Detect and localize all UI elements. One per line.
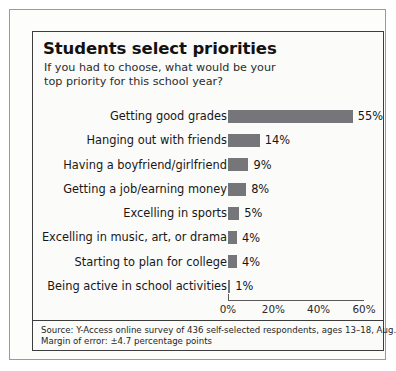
category-label: Having a boyfriend/girlfriend (63, 153, 227, 177)
bar-track: 55% (228, 104, 385, 128)
bar-track: 5% (228, 201, 385, 225)
chart-row: Hanging out with friends14% (33, 128, 385, 152)
bar (228, 134, 260, 147)
bar-track: 8% (228, 177, 385, 201)
category-label: Being active in school activities (47, 274, 227, 298)
footer-divider (33, 320, 383, 321)
bar (228, 255, 237, 268)
bar (228, 183, 246, 196)
chart-row: Having a boyfriend/girlfriend9% (33, 153, 385, 177)
category-label: Hanging out with friends (86, 128, 227, 152)
bar-track: 14% (228, 128, 385, 152)
bar-value-label: 55% (358, 109, 383, 123)
chart-row: Getting a job/earning money8% (33, 177, 385, 201)
bar-track: 4% (228, 225, 385, 249)
bar-value-label: 9% (253, 158, 271, 172)
category-label: Excelling in sports (123, 201, 227, 225)
bar-track: 4% (228, 250, 385, 274)
bar (228, 158, 248, 171)
x-axis-line (228, 300, 364, 301)
chart-row: Getting good grades55% (33, 104, 385, 128)
x-tick-label: 60% (352, 303, 375, 315)
page-frame: Students select priorities If you had to… (9, 9, 386, 360)
bar-value-label: 8% (251, 182, 269, 196)
x-axis-ticks: 0%20%40%60% (228, 303, 388, 317)
chart-title: Students select priorities (43, 39, 277, 58)
chart-row: Starting to plan for college4% (33, 250, 385, 274)
chart-footer: Source: Y-Access online survey of 436 se… (41, 325, 381, 347)
bar (228, 280, 230, 293)
bar-value-label: 1% (235, 279, 253, 293)
chart-card: Students select priorities If you had to… (32, 31, 384, 351)
x-tick-label: 40% (307, 303, 330, 315)
bar (228, 110, 353, 123)
chart-row: Excelling in music, art, or drama4% (33, 225, 385, 249)
category-label: Getting a job/earning money (63, 177, 227, 201)
bar-track: 9% (228, 153, 385, 177)
footer-margin-of-error: Margin of error: ±4.7 percentage points (41, 336, 381, 347)
chart-subtitle: If you had to choose, what would be your… (44, 61, 284, 88)
category-label: Getting good grades (110, 104, 227, 128)
x-tick-label: 0% (220, 303, 236, 315)
chart-row: Excelling in sports5% (33, 201, 385, 225)
x-tick-label: 20% (262, 303, 285, 315)
bar-value-label: 5% (244, 206, 262, 220)
plot-area: Getting good grades55%Hanging out with f… (33, 104, 385, 304)
bar-value-label: 4% (242, 255, 260, 269)
bar-value-label: 14% (265, 133, 290, 147)
bar-track: 1% (228, 274, 385, 298)
category-label: Starting to plan for college (75, 250, 227, 274)
bar (228, 207, 239, 220)
chart-row: Being active in school activities1% (33, 274, 385, 298)
bar (228, 231, 237, 244)
bar-value-label: 4% (242, 231, 260, 245)
footer-source: Source: Y-Access online survey of 436 se… (41, 325, 381, 336)
category-label: Excelling in music, art, or drama (42, 225, 227, 249)
